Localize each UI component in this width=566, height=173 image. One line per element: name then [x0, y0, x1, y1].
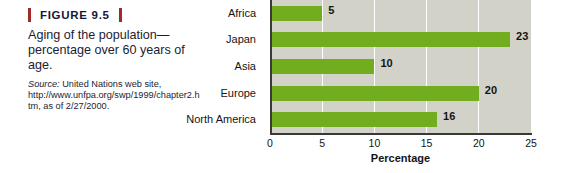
bar-row: 20 — [270, 86, 531, 101]
x-tick-label-25: 25 — [525, 137, 537, 149]
bar-africa — [270, 6, 322, 21]
category-label-japan: Japan — [136, 33, 256, 45]
x-axis-line — [270, 133, 532, 135]
bar-north-america — [270, 112, 437, 127]
category-label-europe: Europe — [136, 87, 256, 99]
bar-chart: 523102016 AfricaJapanAsiaEuropeNorth Ame… — [270, 0, 531, 133]
bar-value-label: 20 — [485, 84, 497, 96]
bar-asia — [270, 59, 374, 74]
x-axis-title: Percentage — [270, 152, 531, 164]
right-rule-bar — [119, 8, 122, 22]
x-tick-label-10: 10 — [369, 137, 381, 149]
bar-value-label: 23 — [516, 30, 528, 42]
bar-value-label: 5 — [328, 4, 334, 16]
left-rule-bar — [28, 8, 31, 22]
x-tick-label-20: 20 — [473, 137, 485, 149]
bar-row: 16 — [270, 112, 531, 127]
x-tick-label-0: 0 — [267, 137, 273, 149]
bar-value-label: 10 — [380, 57, 392, 69]
figure-container: FIGURE 9.5 Aging of the population—perce… — [0, 0, 566, 173]
source-label: Source: — [28, 79, 60, 89]
category-label-north-america: North America — [136, 113, 256, 125]
bar-japan — [270, 32, 510, 47]
bar-value-label: 16 — [443, 110, 455, 122]
y-axis-line — [270, 0, 272, 133]
bar-row: 10 — [270, 59, 531, 74]
x-tick-label-5: 5 — [319, 137, 325, 149]
figure-number-label: FIGURE 9.5 — [40, 9, 110, 21]
category-label-africa: Africa — [136, 7, 256, 19]
category-label-asia: Asia — [136, 60, 256, 72]
x-tick-label-15: 15 — [421, 137, 433, 149]
bar-row: 5 — [270, 6, 531, 21]
bar-row: 23 — [270, 32, 531, 47]
bar-europe — [270, 86, 479, 101]
